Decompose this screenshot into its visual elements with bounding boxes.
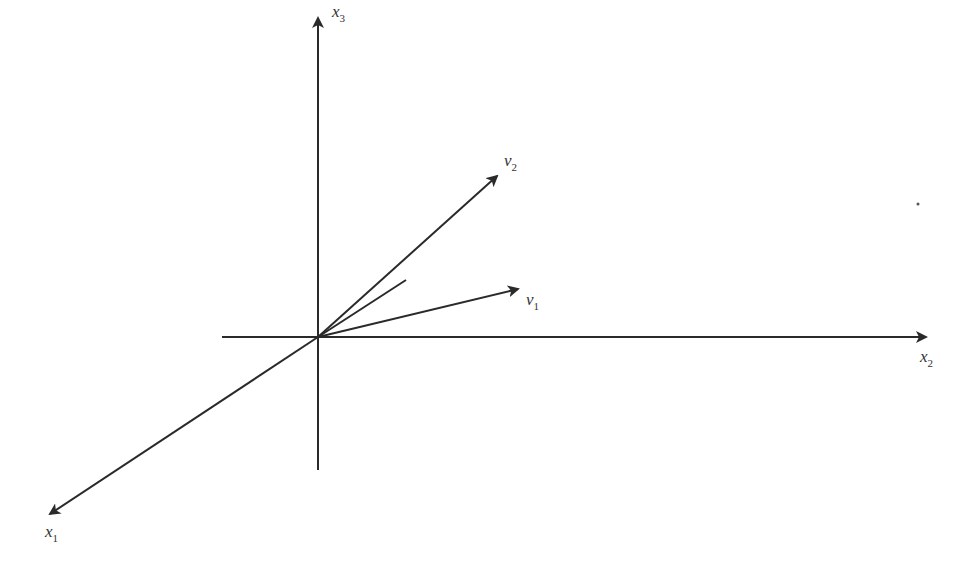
x1-label: x1 (44, 522, 58, 544)
stray-dot (917, 203, 920, 206)
v2-label: v2 (504, 151, 517, 173)
x1-axis (50, 337, 318, 514)
vector-diagram: x3 x2 x1 v2 v1 (0, 0, 969, 571)
v2-vector (318, 176, 497, 337)
v1-label: v1 (526, 290, 539, 312)
projection-line (318, 280, 406, 337)
v1-vector (318, 289, 518, 337)
x3-label: x3 (331, 2, 346, 24)
x2-label: x2 (919, 347, 933, 369)
